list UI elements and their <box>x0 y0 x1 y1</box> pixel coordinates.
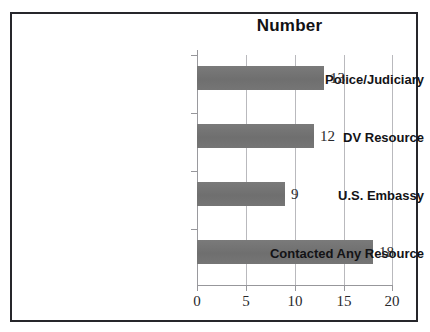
x-tick-0 <box>197 286 198 291</box>
y-tick-3 <box>191 229 197 230</box>
chart-title: Number <box>187 16 392 36</box>
x-tick-label-5: 5 <box>226 293 266 310</box>
x-tick-15 <box>344 286 345 291</box>
chart-figure: Number Police/Judiciary DV Resource U.S.… <box>0 0 430 332</box>
y-tick-0 <box>191 55 197 56</box>
category-label-dv-resource: DV Resource <box>240 130 430 145</box>
y-tick-1 <box>191 113 197 114</box>
x-tick-5 <box>246 286 247 291</box>
x-tick-20 <box>392 286 393 291</box>
y-tick-2 <box>191 171 197 172</box>
x-tick-label-15: 15 <box>324 293 364 310</box>
x-tick-label-0: 0 <box>177 293 217 310</box>
x-tick-label-10: 10 <box>275 293 315 310</box>
x-tick-10 <box>295 286 296 291</box>
category-label-us-embassy: U.S. Embassy <box>240 188 430 203</box>
value-label-police-judiciary: 13 <box>330 70 345 87</box>
value-label-us-embassy: 9 <box>291 186 299 203</box>
category-label-contacted-any-resource: Contacted Any Resource <box>240 246 430 261</box>
x-tick-label-20: 20 <box>372 293 412 310</box>
value-label-dv-resource: 12 <box>320 128 335 145</box>
value-label-contacted-any-resource: 18 <box>379 244 394 261</box>
